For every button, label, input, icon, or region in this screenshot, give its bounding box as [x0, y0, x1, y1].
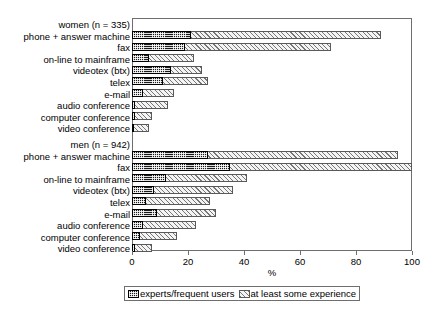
bar-row: [132, 31, 412, 39]
category-label: on-line to mainframe: [0, 175, 130, 185]
bar-experts-frequent-users: [132, 89, 143, 97]
x-tick-label: 80: [341, 256, 371, 267]
x-tick-label: 60: [285, 256, 315, 267]
bar-row: [132, 77, 412, 85]
bar-experts-frequent-users: [132, 124, 134, 132]
x-axis-title: %: [132, 267, 412, 278]
chart-figure: women (n = 335)phone + answer machinefax…: [0, 0, 439, 313]
legend-label-experts: experts/frequent users: [140, 288, 235, 299]
bar-experts-frequent-users: [132, 43, 185, 51]
bar-experts-frequent-users: [132, 31, 191, 39]
bar-experts-frequent-users: [132, 163, 230, 171]
category-label: audio conference: [0, 221, 130, 231]
bar-row: [132, 89, 412, 97]
y-axis-labels: women (n = 335)phone + answer machinefax…: [0, 0, 130, 313]
category-label: on-line to mainframe: [0, 55, 130, 65]
legend-item-experts: experts/frequent users: [128, 288, 235, 299]
category-label: phone + answer machine: [0, 152, 130, 162]
bar-at-least-some-experience: [132, 124, 149, 132]
bar-experts-frequent-users: [132, 101, 135, 109]
bar-experts-frequent-users: [132, 197, 146, 205]
x-tick-mark: [356, 251, 357, 255]
bar-experts-frequent-users: [132, 151, 208, 159]
category-label: e-mail: [0, 210, 130, 220]
bar-experts-frequent-users: [132, 77, 163, 85]
category-label: fax: [0, 43, 130, 53]
category-label: fax: [0, 163, 130, 173]
legend-swatch-experts-icon: [128, 290, 139, 298]
bar-row: [132, 197, 412, 205]
bar-row: [132, 43, 412, 51]
bar-row: [132, 232, 412, 240]
bar-row: [132, 151, 412, 159]
legend-label-experience: at least some experience: [251, 288, 357, 299]
category-label: computer conference: [0, 233, 130, 243]
bar-row: [132, 66, 412, 74]
group-heading-men: men (n = 942): [0, 140, 130, 150]
bar-row: [132, 221, 412, 229]
bar-row: [132, 101, 412, 109]
chart-legend: experts/frequent users at least some exp…: [124, 286, 360, 301]
bar-row: [132, 54, 412, 62]
bar-experts-frequent-users: [132, 54, 149, 62]
group-heading-women: women (n = 335): [0, 20, 130, 30]
category-label: audio conference: [0, 101, 130, 111]
category-label: video conference: [0, 124, 130, 134]
bar-row: [132, 174, 412, 182]
category-label: telex: [0, 198, 130, 208]
category-label: computer conference: [0, 113, 130, 123]
bar-experts-frequent-users: [132, 174, 166, 182]
bar-row: [132, 209, 412, 217]
category-label: videotex (btx): [0, 186, 130, 196]
category-label: e-mail: [0, 90, 130, 100]
x-tick-mark: [300, 251, 301, 255]
x-tick-mark: [412, 251, 413, 255]
bar-row: [132, 163, 412, 171]
x-tick-label: 100: [397, 256, 427, 267]
bar-experts-frequent-users: [132, 186, 154, 194]
category-label: videotex (btx): [0, 66, 130, 76]
bar-row: [132, 186, 412, 194]
legend-item-experience: at least some experience: [235, 288, 357, 299]
x-tick-mark: [132, 251, 133, 255]
bar-at-least-some-experience: [132, 112, 152, 120]
x-tick-label: 40: [229, 256, 259, 267]
x-tick-mark: [188, 251, 189, 255]
bar-row: [132, 112, 412, 120]
bar-at-least-some-experience: [132, 101, 168, 109]
legend-swatch-experience-icon: [239, 290, 250, 298]
category-label: telex: [0, 78, 130, 88]
x-tick-mark: [244, 251, 245, 255]
category-label: phone + answer machine: [0, 32, 130, 42]
bar-experts-frequent-users: [132, 112, 135, 120]
x-tick-label: 0: [117, 256, 147, 267]
bar-row: [132, 124, 412, 132]
bar-experts-frequent-users: [132, 209, 157, 217]
bar-experts-frequent-users: [132, 221, 143, 229]
bar-experts-frequent-users: [132, 232, 140, 240]
x-tick-label: 20: [173, 256, 203, 267]
bar-experts-frequent-users: [132, 66, 171, 74]
category-label: video conference: [0, 244, 130, 254]
